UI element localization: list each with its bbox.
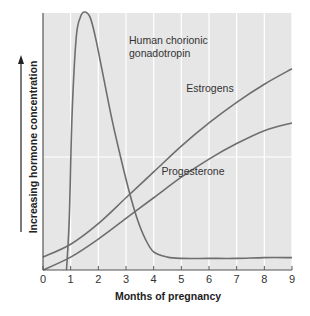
- x-tick-label: 5: [178, 273, 184, 285]
- progesterone-label: Progesterone: [161, 165, 224, 177]
- x-tick-label: 7: [234, 273, 240, 285]
- x-tick-label: 2: [95, 273, 101, 285]
- y-axis-title: Increasing hormone concentration: [27, 61, 39, 234]
- hormone-chart: 0123456789 Human chorionicgonadotropinEs…: [0, 0, 310, 316]
- estrogens-label: Estrogens: [186, 82, 233, 94]
- x-axis-title: Months of pregnancy: [115, 290, 221, 302]
- x-tick-label: 8: [261, 273, 267, 285]
- x-tick-label: 4: [151, 273, 157, 285]
- x-tick-labels: 0123456789: [40, 273, 295, 285]
- x-tick-label: 9: [289, 273, 295, 285]
- x-tick-label: 0: [40, 273, 46, 285]
- arrow-up-icon: [18, 55, 24, 64]
- x-tick-label: 3: [123, 273, 129, 285]
- y-axis-title-group: Increasing hormone concentration: [18, 55, 39, 233]
- x-tick-label: 1: [68, 273, 74, 285]
- hcg-label: Human chorionic: [129, 34, 208, 46]
- x-tick-label: 6: [206, 273, 212, 285]
- hcg-label: gonadotropin: [129, 47, 190, 59]
